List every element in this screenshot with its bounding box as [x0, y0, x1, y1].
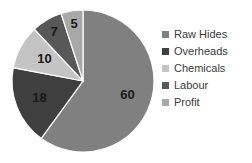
legend-swatch-icon [162, 82, 169, 89]
legend-item[interactable]: Profit [162, 95, 252, 110]
legend-item[interactable]: Chemicals [162, 61, 252, 76]
legend-swatch-icon [162, 99, 169, 106]
pie-slice-value-label: 5 [70, 16, 77, 31]
pie-slice-value-label: 7 [50, 24, 57, 39]
legend-item[interactable]: Overheads [162, 44, 252, 59]
legend-item-label: Profit [174, 96, 200, 109]
legend-swatch-icon [162, 31, 169, 38]
pie-plot-area: 60181075 [0, 0, 160, 163]
pie-slice-value-label: 10 [37, 51, 51, 66]
chart-legend: Raw HidesOverheadsChemicalsLabourProfit [162, 27, 252, 110]
pie-svg: 60181075 [0, 0, 160, 163]
legend-swatch-icon [162, 48, 169, 55]
legend-item-label: Raw Hides [174, 28, 227, 41]
legend-item[interactable]: Raw Hides [162, 27, 252, 42]
legend-item[interactable]: Labour [162, 78, 252, 93]
legend-swatch-icon [162, 65, 169, 72]
legend-item-label: Overheads [174, 45, 228, 58]
pie-slice-value-label: 60 [120, 87, 134, 102]
pie-slice-value-label: 18 [32, 90, 46, 105]
legend-item-label: Labour [174, 79, 208, 92]
pie-slice-group [12, 10, 154, 152]
legend-item-label: Chemicals [174, 62, 225, 75]
pie-chart-figure: 60181075 Raw HidesOverheadsChemicalsLabo… [0, 0, 252, 163]
